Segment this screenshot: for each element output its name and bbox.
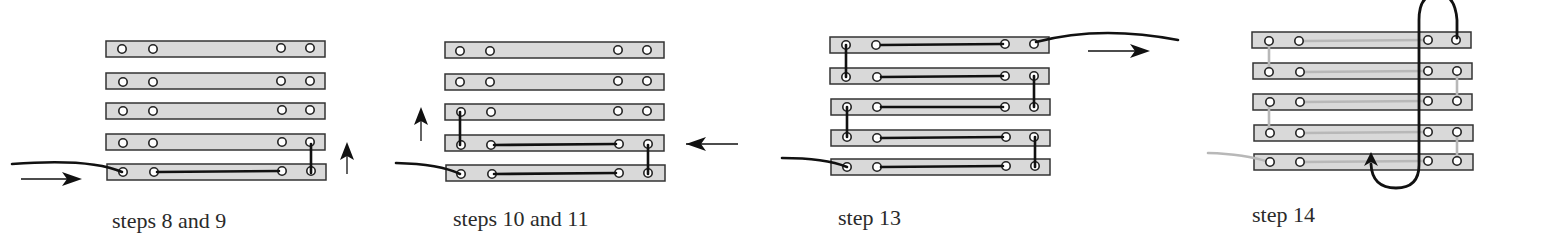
caption-step-13: step 13 bbox=[838, 205, 901, 231]
arrow-right-icon bbox=[21, 172, 82, 186]
panel-step-14: step 14 bbox=[1190, 0, 1553, 247]
caption-step-14: step 14 bbox=[1252, 202, 1315, 228]
caption-steps-10-11: steps 10 and 11 bbox=[453, 206, 588, 232]
arrow-left-icon bbox=[686, 137, 738, 151]
panel-step-13: step 13 bbox=[770, 0, 1190, 247]
lacing-diagram-step-13 bbox=[770, 0, 1190, 247]
arrow-up-icon bbox=[414, 107, 428, 141]
arrow-right-icon bbox=[1088, 44, 1150, 58]
caption-steps-8-9: steps 8 and 9 bbox=[112, 208, 226, 234]
lacing-diagram-step-14 bbox=[1190, 0, 1553, 247]
slats bbox=[445, 42, 665, 181]
slats bbox=[106, 41, 326, 180]
panel-steps-8-9: steps 8 and 9 bbox=[0, 0, 390, 247]
panel-steps-10-11: steps 10 and 11 bbox=[390, 0, 780, 247]
arrow-up-icon bbox=[340, 142, 354, 174]
